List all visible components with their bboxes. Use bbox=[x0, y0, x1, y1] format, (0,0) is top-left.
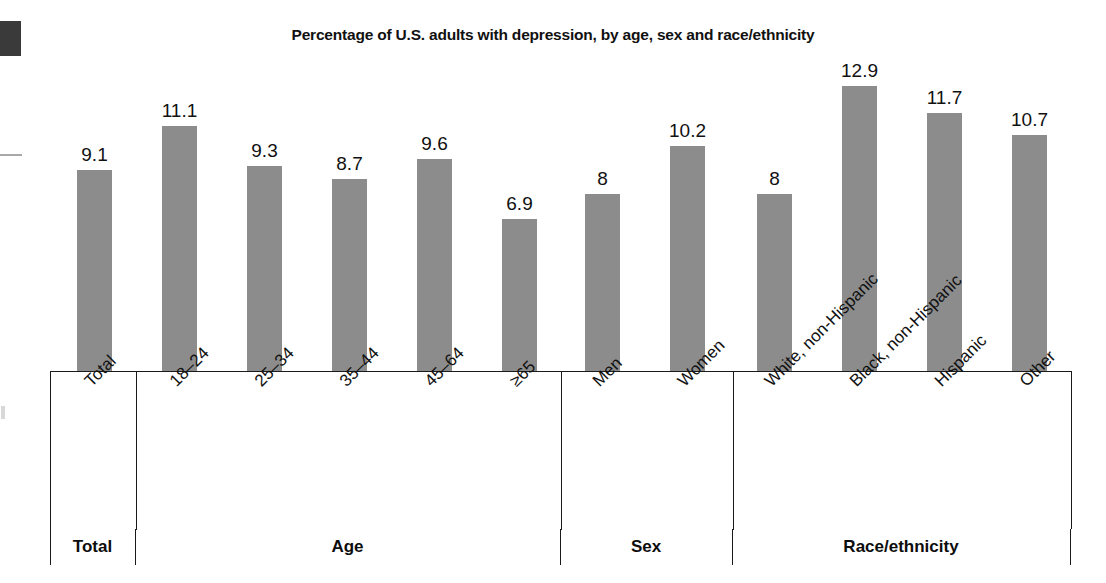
bar-value-label: 12.9 bbox=[820, 60, 899, 82]
bar-value-label: 11.1 bbox=[140, 100, 219, 122]
group-label: Total bbox=[50, 537, 135, 557]
bar-value-label: 10.2 bbox=[648, 120, 727, 142]
bar-value-label: 9.3 bbox=[225, 140, 304, 162]
bar-value-label: 8 bbox=[735, 168, 814, 190]
bar-slot: 9.3 bbox=[247, 62, 282, 371]
group-label: Race/ethnicity bbox=[732, 537, 1070, 557]
group-divider bbox=[561, 372, 562, 530]
axis-box: Total18–2425–3435–4445–64≥65MenWomenWhit… bbox=[50, 371, 1072, 529]
bar bbox=[757, 194, 792, 371]
chart-figure: Percentage of U.S. adults with depressio… bbox=[0, 0, 1106, 583]
bar-value-label: 8 bbox=[563, 168, 642, 190]
bar bbox=[162, 126, 197, 371]
bar-value-label: 9.1 bbox=[55, 144, 134, 166]
scan-artifact-speck bbox=[1, 406, 5, 419]
bar-slot: 10.7 bbox=[1012, 62, 1047, 371]
bar bbox=[77, 170, 112, 371]
bar-value-label: 9.6 bbox=[395, 133, 474, 155]
bar-slot: 12.9 bbox=[842, 62, 877, 371]
bar-slot: 10.2 bbox=[670, 62, 705, 371]
bar-value-label: 8.7 bbox=[310, 153, 389, 175]
bar bbox=[842, 86, 877, 371]
bar bbox=[585, 194, 620, 371]
group-label: Age bbox=[135, 537, 560, 557]
bar bbox=[927, 113, 962, 371]
bar-slot: 8.7 bbox=[332, 62, 367, 371]
bar bbox=[332, 179, 367, 371]
group-label-band: TotalAgeSexRace/ethnicity bbox=[50, 529, 1072, 569]
bar bbox=[247, 166, 282, 371]
group-tick bbox=[1070, 529, 1071, 565]
bar-value-label: 10.7 bbox=[990, 109, 1069, 131]
bar-slot: 11.1 bbox=[162, 62, 197, 371]
bar-slot: 9.6 bbox=[417, 62, 452, 371]
bar-slot: 11.7 bbox=[927, 62, 962, 371]
bar-slot: 6.9 bbox=[502, 62, 537, 371]
group-divider bbox=[733, 372, 734, 530]
bar bbox=[502, 219, 537, 371]
bar-slot: 8 bbox=[757, 62, 792, 371]
bar-value-label: 11.7 bbox=[905, 87, 984, 109]
bar-slot: 9.1 bbox=[77, 62, 112, 371]
bar bbox=[417, 159, 452, 371]
group-label: Sex bbox=[560, 537, 732, 557]
bar-value-label: 6.9 bbox=[480, 193, 559, 215]
scan-artifact-rule bbox=[0, 154, 22, 156]
chart-title: Percentage of U.S. adults with depressio… bbox=[0, 26, 1106, 44]
group-divider bbox=[136, 372, 137, 530]
bar-slot: 8 bbox=[585, 62, 620, 371]
bar bbox=[1012, 135, 1047, 371]
bar bbox=[670, 146, 705, 371]
